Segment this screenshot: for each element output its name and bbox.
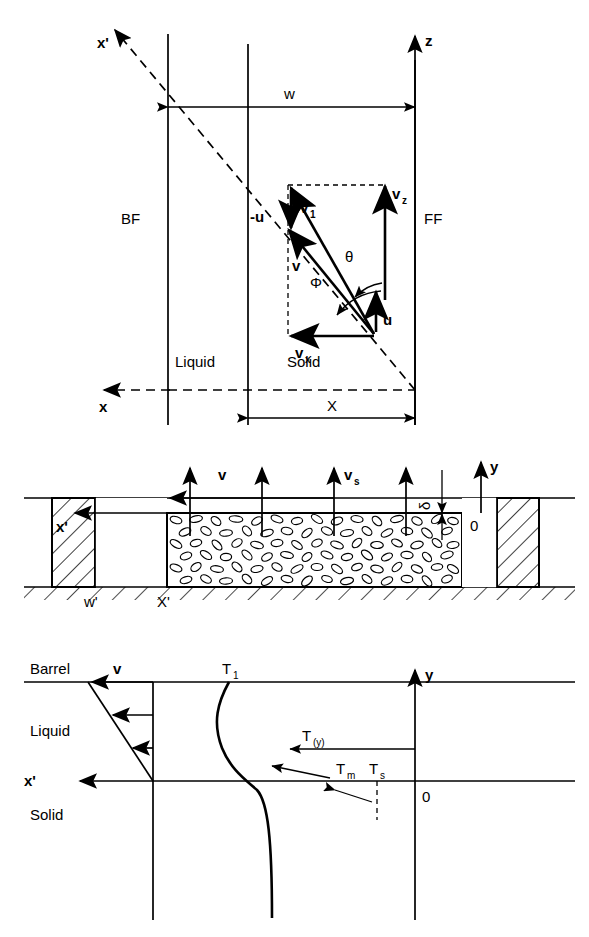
label-liquid-3: Liquid bbox=[30, 722, 70, 739]
label-solid-velocity: v bbox=[344, 466, 353, 483]
right-melt-pool bbox=[462, 498, 497, 587]
axis-x-label: x bbox=[99, 398, 108, 415]
dimension-w-label: w bbox=[283, 85, 295, 102]
label-solid: Solid bbox=[287, 353, 320, 370]
dimension-X-label: X bbox=[327, 397, 337, 414]
origin-label-2: 0 bbox=[470, 517, 478, 534]
vector-vx-sub: x bbox=[305, 354, 311, 365]
axis-z-label: z bbox=[425, 32, 433, 49]
axis-x-prime-label-3: x' bbox=[24, 772, 36, 789]
panel-temperature-velocity-profile: Barrel x' Liquid Solid v y 0 T 1 T (y) T… bbox=[0, 630, 589, 937]
label-barrel-temp-sub: 1 bbox=[233, 670, 239, 681]
vector-v-label: v bbox=[292, 257, 301, 274]
axis-x-prime-label-2: x' bbox=[56, 518, 68, 535]
label-bed-width: X' bbox=[157, 593, 170, 610]
label-solid-3: Solid bbox=[30, 806, 63, 823]
right-flight-hatched bbox=[497, 498, 539, 587]
axis-y-label-3: y bbox=[425, 666, 434, 683]
vector-vz-sub: z bbox=[402, 195, 407, 206]
vector-u-label: u bbox=[383, 311, 392, 328]
axis-y-label-2: y bbox=[490, 458, 499, 475]
temperature-curve bbox=[217, 682, 272, 918]
label-barrel-temp: T bbox=[222, 660, 231, 677]
label-solid-temp: T bbox=[369, 760, 378, 777]
angle-theta-label: θ bbox=[345, 248, 353, 265]
label-liquid: Liquid bbox=[175, 353, 215, 370]
label-melt-velocity: v bbox=[218, 466, 227, 483]
label-melt-temp: T bbox=[336, 760, 345, 777]
label-solid-temp-sub: s bbox=[380, 770, 385, 781]
label-solid-velocity-sub: s bbox=[354, 476, 360, 487]
label-melt-temp-sub: m bbox=[347, 770, 355, 781]
panel-solid-bed-cross-section: v v s x' δ y 0 w' X' bbox=[0, 440, 589, 630]
axis-x-prime-label: x' bbox=[97, 34, 109, 51]
label-film-thickness: δ bbox=[416, 502, 433, 510]
label-temp-profile: T bbox=[302, 727, 311, 744]
angle-theta-arc bbox=[355, 283, 382, 297]
vector-v1-sub: 1 bbox=[310, 209, 316, 220]
label-velocity-3: v bbox=[113, 660, 122, 677]
panel-velocity-vector-diagram: z x' w BF FF Liquid Solid x X v z u -u v… bbox=[0, 0, 589, 432]
angle-phi-label: Φ bbox=[310, 274, 322, 291]
hatch-mask bbox=[24, 600, 575, 630]
left-melt-pool bbox=[95, 498, 167, 587]
vector-minus-u-label: -u bbox=[250, 208, 264, 225]
label-temp-profile-sub: (y) bbox=[313, 737, 325, 748]
origin-label-3: 0 bbox=[422, 788, 430, 805]
label-ff: FF bbox=[424, 210, 442, 227]
vector-vx-label: v bbox=[295, 344, 304, 361]
vector-v bbox=[289, 230, 374, 334]
figure-container: z x' w BF FF Liquid Solid x X v z u -u v… bbox=[0, 0, 589, 937]
vector-vz-label: v bbox=[392, 185, 401, 202]
Ts-leader bbox=[335, 790, 372, 802]
left-flight-hatched bbox=[52, 498, 95, 587]
label-flight-width: w' bbox=[83, 593, 98, 610]
velocity-profile-hypotenuse bbox=[88, 682, 153, 781]
label-barrel: Barrel bbox=[30, 660, 70, 677]
vector-v1-label: v bbox=[300, 199, 309, 216]
Tm-leader bbox=[272, 766, 330, 778]
label-bf: BF bbox=[121, 210, 140, 227]
